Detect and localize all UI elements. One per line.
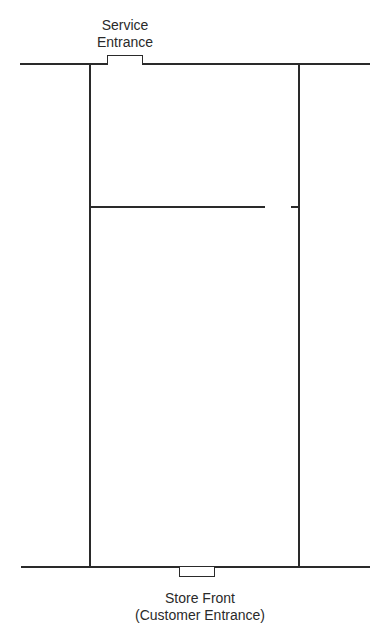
front-label-line1: Store Front — [120, 590, 280, 607]
interior-partition-stub — [291, 206, 299, 208]
service-label-line2: Entrance — [80, 34, 170, 51]
service-entrance-label: Service Entrance — [80, 17, 170, 51]
store-front-label: Store Front (Customer Entrance) — [120, 590, 280, 624]
service-entrance-door — [107, 55, 143, 65]
left-wall — [89, 63, 91, 568]
front-label-line2: (Customer Entrance) — [120, 607, 280, 624]
right-wall — [298, 63, 300, 568]
top-boundary-line — [20, 63, 370, 65]
interior-partition-wall — [90, 206, 265, 208]
customer-entrance-door — [179, 567, 215, 577]
service-label-line1: Service — [80, 17, 170, 34]
